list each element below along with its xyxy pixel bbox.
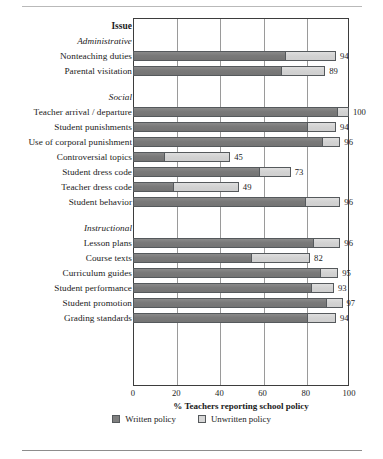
bar-segment-unwritten [305,197,341,207]
bar-row-teacher-arrival-departure: Teacher arrival / departure100 [0,104,383,119]
legend-swatch-written-icon [112,415,120,423]
bar-row-student-promotion: Student promotion97 [0,295,383,310]
bar-teacher-arrival-departure[interactable]: 100 [133,107,349,117]
x-tick-40: 40 [215,388,224,398]
group-label-administrative: Administrative [77,35,132,46]
bar-segment-written [133,66,282,76]
bar-student-punishments[interactable]: 94 [133,122,349,132]
bar-segment-unwritten [307,313,336,323]
bar-label-student-dress-code: Student dress code [62,166,132,177]
bar-student-performance[interactable]: 93 [133,283,349,293]
bar-value-student-punishments: 94 [340,122,349,132]
bar-value-student-dress-code: 73 [295,167,304,177]
bar-label-grading-standards: Grading standards [64,312,132,323]
x-tick-60: 60 [258,388,267,398]
chart-legend: Written policy Unwritten policy [0,414,383,424]
bar-segment-unwritten [164,152,230,162]
legend-swatch-unwritten-icon [198,415,206,423]
x-tick-20: 20 [172,388,181,398]
bar-label-student-performance: Student performance [54,282,132,293]
bar-value-parental-visitation: 89 [329,66,338,76]
legend-item-written: Written policy [112,414,176,424]
bar-label-nonteaching-duties: Nonteaching duties [60,50,132,61]
group-label-instructional: Instructional [84,222,132,233]
x-axis-title: % Teachers reporting school policy [133,401,349,411]
bar-row-controversial-topics: Controversial topics45 [0,149,383,164]
bar-segment-written [133,152,165,162]
bar-segment-written [133,298,327,308]
bar-segment-unwritten [259,167,290,177]
bar-use-of-corporal-punishment[interactable]: 96 [133,137,349,147]
bar-grading-standards[interactable]: 94 [133,313,349,323]
bar-segment-unwritten [326,298,342,308]
bar-label-student-punishments: Student punishments [54,121,132,132]
bar-segment-written [133,182,174,192]
bar-row-grading-standards: Grading standards94 [0,310,383,325]
bar-value-grading-standards: 94 [340,313,349,323]
bar-segment-unwritten [307,122,336,132]
bar-row-parental-visitation: Parental visitation89 [0,63,383,78]
bar-segment-written [133,137,323,147]
group-spacer [0,209,383,220]
chart-page: IssueAdministrativeNonteaching duties94P… [0,0,383,459]
bar-value-student-performance: 93 [338,283,347,293]
bar-row-student-punishments: Student punishments94 [0,119,383,134]
bar-row-student-behavior: Student behavior96 [0,194,383,209]
bar-segment-unwritten [337,107,349,117]
bar-segment-unwritten [173,182,239,192]
legend-item-unwritten: Unwritten policy [198,414,271,424]
bar-value-teacher-dress-code: 49 [243,182,252,192]
bar-lesson-plans[interactable]: 96 [133,238,349,248]
bar-controversial-topics[interactable]: 45 [133,152,349,162]
bar-row-student-dress-code: Student dress code73 [0,164,383,179]
bar-segment-written [133,283,312,293]
x-tick-0: 0 [131,388,135,398]
bar-parental-visitation[interactable]: 89 [133,66,349,76]
bar-value-curriculum-guides: 95 [342,268,351,278]
bar-segment-unwritten [251,253,310,263]
bar-value-nonteaching-duties: 94 [340,51,349,61]
bar-label-curriculum-guides: Curriculum guides [63,267,133,278]
bar-segment-written [133,122,308,132]
x-tick-80: 80 [302,388,311,398]
bar-row-course-texts: Course texts82 [0,250,383,265]
bar-value-student-promotion: 97 [347,298,356,308]
group-spacer [0,78,383,89]
bar-segment-written [133,167,260,177]
group-row-instructional: Instructional [0,220,383,235]
bar-segment-unwritten [313,238,340,248]
bar-segment-written [133,107,338,117]
bar-row-teacher-dress-code: Teacher dress code49 [0,179,383,194]
bar-segment-written [133,253,252,263]
bar-student-promotion[interactable]: 97 [133,298,349,308]
bar-row-student-performance: Student performance93 [0,280,383,295]
bar-row-curriculum-guides: Curriculum guides95 [0,265,383,280]
bar-label-teacher-dress-code: Teacher dress code [61,181,132,192]
bar-label-controversial-topics: Controversial topics [57,151,132,162]
bar-student-behavior[interactable]: 96 [133,197,349,207]
chart-rows: IssueAdministrativeNonteaching duties94P… [0,18,383,325]
bar-label-lesson-plans: Lesson plans [84,237,132,248]
group-label-social: Social [109,91,132,102]
bar-segment-written [133,268,321,278]
legend-label-unwritten: Unwritten policy [211,414,271,424]
bar-row-nonteaching-duties: Nonteaching duties94 [0,48,383,63]
stacked-bar-chart: IssueAdministrativeNonteaching duties94P… [0,14,383,394]
bar-label-parental-visitation: Parental visitation [64,65,132,76]
bar-segment-written [133,51,286,61]
bar-segment-unwritten [320,268,338,278]
bar-label-student-behavior: Student behavior [69,196,132,207]
x-tick-100: 100 [343,388,356,398]
bottom-divider-rule [22,450,362,451]
bar-segment-unwritten [322,137,340,147]
bar-nonteaching-duties[interactable]: 94 [133,51,349,61]
bar-label-use-of-corporal-punishment: Use of corporal punishment [28,136,132,147]
bar-course-texts[interactable]: 82 [133,253,349,263]
bar-teacher-dress-code[interactable]: 49 [133,182,349,192]
bar-value-course-texts: 82 [314,253,323,263]
bar-segment-written [133,313,308,323]
bar-label-teacher-arrival-departure: Teacher arrival / departure [34,106,132,117]
bar-curriculum-guides[interactable]: 95 [133,268,349,278]
bar-student-dress-code[interactable]: 73 [133,167,349,177]
y-axis-header-label: Issue [111,20,132,31]
